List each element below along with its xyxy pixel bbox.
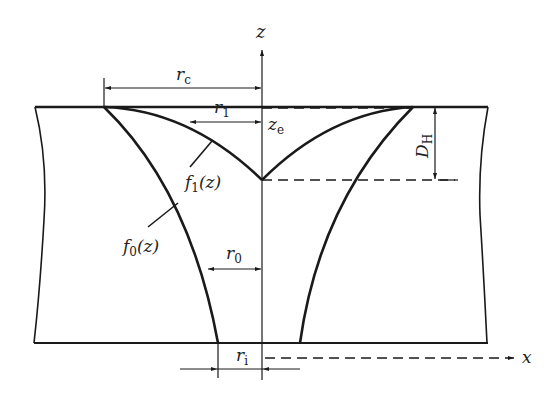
z-axis-label: z: [255, 21, 266, 42]
right-side-edge: [480, 107, 488, 343]
left-side-edge: [34, 107, 45, 343]
f1-leader-line: [190, 141, 212, 167]
dh-label: DH: [412, 134, 435, 159]
ze-label: ze: [267, 114, 284, 137]
left-outer-curve-f0: [104, 107, 218, 343]
r0-label: r0: [226, 243, 242, 266]
right-outer-curve: [300, 107, 413, 343]
diagram-canvas: z x rc r1 ze DH f1(z) f0(z) r0 ri: [0, 0, 560, 395]
rc-label: rc: [176, 64, 191, 87]
ri-label: ri: [236, 345, 248, 368]
left-inner-curve-f1: [104, 107, 262, 180]
workpiece-outline: [34, 107, 488, 343]
f0-label: f0(z): [121, 236, 159, 259]
right-inner-curve: [262, 107, 413, 180]
f1-label: f1(z): [183, 172, 221, 195]
f0-leader-line: [148, 203, 178, 227]
x-axis-label: x: [522, 347, 532, 367]
r1-label: r1: [214, 97, 230, 120]
